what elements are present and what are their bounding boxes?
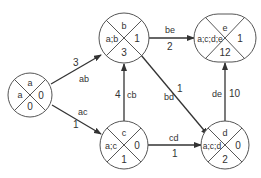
edge-ac-label: ac bbox=[78, 107, 88, 117]
node-b-latest: 3 bbox=[121, 47, 127, 58]
node-b-earliest: 1 bbox=[134, 33, 140, 44]
edge-be: be 2 bbox=[149, 25, 194, 52]
node-d: d a;c;d 0 2 bbox=[201, 121, 249, 169]
network-diagram: 3 ab ac 1 4 cb be 2 1 bd cd 1 de 10 a a bbox=[0, 0, 261, 178]
node-c-earliest: 0 bbox=[134, 140, 140, 151]
edge-de: de 10 bbox=[212, 63, 241, 121]
edge-cb-label: cb bbox=[127, 90, 137, 100]
edge-bd-line bbox=[141, 55, 208, 135]
node-a-earliest: 0 bbox=[38, 90, 44, 101]
node-c-path: a;c bbox=[105, 141, 118, 151]
node-a-latest: 0 bbox=[27, 101, 33, 112]
edge-ab-label: ab bbox=[79, 74, 89, 84]
node-c: c a;c 0 1 bbox=[100, 121, 148, 169]
node-d-path: a;c;d bbox=[203, 141, 222, 151]
edge-de-weight: 10 bbox=[229, 88, 241, 99]
node-c-latest: 1 bbox=[121, 154, 127, 165]
edge-cd: cd 1 bbox=[148, 133, 201, 159]
node-e-earliest: 1 bbox=[237, 33, 243, 44]
edge-cd-label: cd bbox=[169, 133, 179, 143]
edge-cd-weight: 1 bbox=[172, 148, 178, 159]
edge-ab-weight: 3 bbox=[73, 57, 79, 68]
node-b: b a;b 1 3 bbox=[99, 13, 149, 63]
node-e-latest: 12 bbox=[219, 47, 231, 58]
node-d-earliest: 0 bbox=[235, 140, 241, 151]
node-c-name: c bbox=[122, 128, 127, 138]
edge-be-label: be bbox=[165, 25, 175, 35]
edge-cb: 4 cb bbox=[115, 64, 137, 126]
edge-be-weight: 2 bbox=[167, 41, 173, 52]
node-d-name: d bbox=[222, 128, 227, 138]
node-d-latest: 2 bbox=[222, 154, 228, 165]
edge-ab: 3 ab bbox=[51, 55, 101, 84]
edge-cb-weight: 4 bbox=[115, 89, 121, 100]
edge-ac-weight: 1 bbox=[73, 119, 79, 130]
node-e: e a;c;d;e 1 12 bbox=[194, 14, 256, 62]
edge-bd: 1 bd bbox=[141, 55, 208, 135]
node-a-name: a bbox=[27, 78, 32, 88]
edge-bd-weight: 1 bbox=[177, 83, 183, 94]
node-e-name: e bbox=[222, 23, 227, 33]
node-b-path: a;b bbox=[106, 34, 119, 44]
edge-de-label: de bbox=[212, 89, 222, 99]
node-a: a a 0 0 bbox=[8, 73, 52, 117]
node-a-path: a bbox=[17, 90, 22, 100]
edge-ac: ac 1 bbox=[52, 105, 101, 134]
node-e-path: a;c;d;e bbox=[197, 34, 223, 44]
edge-bd-label: bd bbox=[164, 92, 174, 102]
node-b-name: b bbox=[121, 21, 126, 31]
